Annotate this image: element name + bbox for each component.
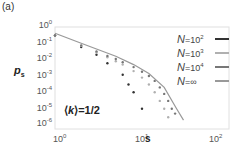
data-point [167,100,169,102]
legend-item: N=103 [177,46,229,60]
data-point [141,71,143,73]
data-point [171,108,173,110]
y-axis-label-sub: s [21,71,25,78]
y-tick-label: 10-6 [26,117,52,128]
data-point [122,61,124,63]
data-point [54,34,56,36]
data-point [115,58,117,60]
legend: N=102N=103N=104N=∞ [177,32,229,88]
y-tick-label: 100 [26,19,52,30]
legend-swatch [215,80,229,82]
data-point [154,91,156,93]
x-tick-label: 102 [209,133,222,144]
data-point [141,108,143,110]
y-tick-label: 10-1 [26,36,52,47]
legend-label: N=∞ [177,75,213,87]
legend-item: N=104 [177,60,229,74]
data-point [148,83,150,85]
data-point [115,60,117,62]
data-point [95,54,97,56]
legend-swatch [215,66,229,68]
data-point [122,74,124,76]
data-point [106,55,108,57]
y-axis-label-main: p [14,64,21,76]
legend-label: N=104 [177,61,213,73]
legend-swatch [215,52,229,54]
data-point [159,100,161,102]
annotation-value: ⟩=1/2 [74,104,100,116]
data-point [163,93,165,95]
data-point [174,112,176,114]
data-point [80,44,82,46]
data-point [132,91,134,93]
data-point [167,116,169,118]
y-tick-label: 10-2 [26,52,52,63]
legend-label: N=103 [177,47,213,59]
data-point [159,86,161,88]
y-tick-label: 10-3 [26,69,52,80]
x-axis-label: s [145,133,151,144]
data-point [127,83,129,85]
y-axis-label: ps [14,64,25,78]
legend-label: N=102 [177,33,213,45]
legend-swatch [215,38,229,40]
data-point [132,66,134,68]
data-point [106,62,108,64]
data-point [122,63,124,65]
y-tick-label: 10-4 [26,85,52,96]
data-point [163,108,165,110]
mean-degree-annotation: ⟨k⟩=1/2 [64,104,100,117]
data-point [132,70,134,72]
y-tick-label: 10-5 [26,102,52,113]
data-point [141,76,143,78]
data-point [95,50,97,52]
legend-item: N=102 [177,32,229,46]
legend-item: N=∞ [177,74,229,88]
x-tick-label: 100 [53,133,66,144]
